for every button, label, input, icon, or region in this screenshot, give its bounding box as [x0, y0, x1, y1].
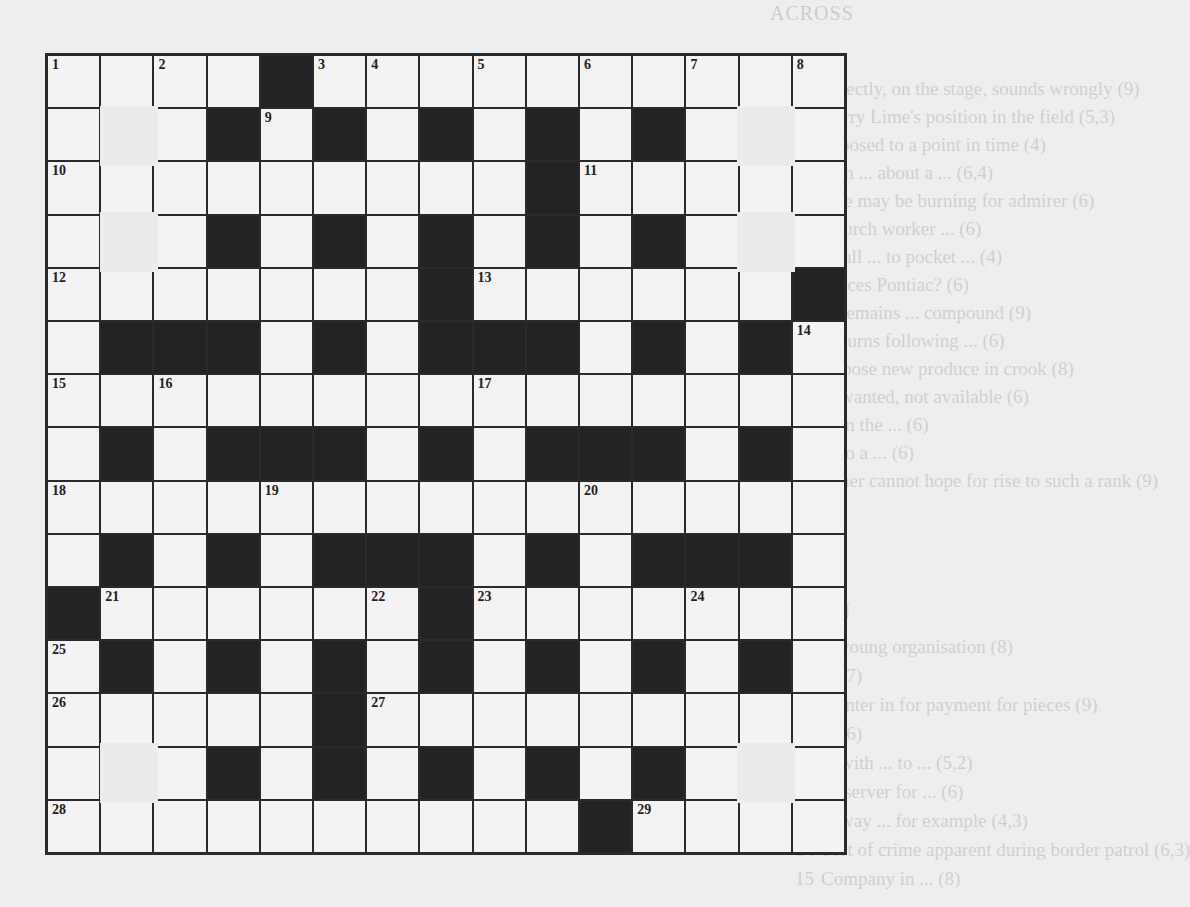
- grid-cell[interactable]: [420, 801, 471, 852]
- grid-cell[interactable]: [154, 269, 205, 320]
- grid-cell[interactable]: [48, 748, 99, 799]
- grid-cell[interactable]: [793, 588, 844, 639]
- grid-cell[interactable]: [474, 216, 525, 267]
- grid-cell[interactable]: [527, 588, 578, 639]
- grid-cell[interactable]: 11: [580, 162, 631, 213]
- grid-cell[interactable]: [633, 588, 684, 639]
- grid-cell[interactable]: [261, 322, 312, 373]
- grid-cell[interactable]: [48, 109, 99, 160]
- grid-cell[interactable]: [208, 269, 259, 320]
- grid-cell[interactable]: [686, 109, 737, 160]
- grid-cell[interactable]: [580, 535, 631, 586]
- grid-cell[interactable]: 27: [367, 694, 418, 745]
- grid-cell[interactable]: [686, 748, 737, 799]
- grid-cell[interactable]: [367, 109, 418, 160]
- grid-cell[interactable]: [314, 801, 365, 852]
- grid-cell[interactable]: [367, 322, 418, 373]
- grid-cell[interactable]: [367, 748, 418, 799]
- grid-cell[interactable]: [154, 216, 205, 267]
- grid-cell[interactable]: [101, 375, 152, 426]
- grid-cell[interactable]: [580, 748, 631, 799]
- grid-cell[interactable]: [686, 322, 737, 373]
- grid-cell[interactable]: [793, 535, 844, 586]
- grid-cell[interactable]: 10: [48, 162, 99, 213]
- grid-cell[interactable]: [793, 694, 844, 745]
- grid-cell[interactable]: 6: [580, 56, 631, 107]
- grid-cell[interactable]: [314, 269, 365, 320]
- grid-cell[interactable]: [474, 535, 525, 586]
- grid-cell[interactable]: [527, 482, 578, 533]
- grid-cell[interactable]: [367, 269, 418, 320]
- grid-cell[interactable]: 28: [48, 801, 99, 852]
- grid-cell[interactable]: [261, 162, 312, 213]
- grid-cell[interactable]: [686, 641, 737, 692]
- grid-cell[interactable]: [154, 428, 205, 479]
- grid-cell[interactable]: 18: [48, 482, 99, 533]
- grid-cell[interactable]: [367, 641, 418, 692]
- grid-cell[interactable]: [101, 801, 152, 852]
- grid-cell[interactable]: [793, 428, 844, 479]
- grid-cell[interactable]: [686, 375, 737, 426]
- grid-cell[interactable]: 23: [474, 588, 525, 639]
- grid-cell[interactable]: [314, 482, 365, 533]
- grid-cell[interactable]: [208, 482, 259, 533]
- grid-cell[interactable]: [474, 428, 525, 479]
- grid-cell[interactable]: [367, 428, 418, 479]
- grid-cell[interactable]: 5: [474, 56, 525, 107]
- grid-cell[interactable]: [48, 322, 99, 373]
- grid-cell[interactable]: [740, 694, 791, 745]
- grid-cell[interactable]: 26: [48, 694, 99, 745]
- grid-cell[interactable]: [208, 375, 259, 426]
- grid-cell[interactable]: [580, 216, 631, 267]
- grid-cell[interactable]: [261, 801, 312, 852]
- grid-cell[interactable]: [101, 162, 152, 213]
- grid-cell[interactable]: [793, 482, 844, 533]
- grid-cell[interactable]: 14: [793, 322, 844, 373]
- grid-cell[interactable]: [633, 56, 684, 107]
- grid-cell[interactable]: [633, 375, 684, 426]
- grid-cell[interactable]: [261, 588, 312, 639]
- grid-cell[interactable]: 17: [474, 375, 525, 426]
- grid-cell[interactable]: [420, 694, 471, 745]
- grid-cell[interactable]: [367, 801, 418, 852]
- grid-cell[interactable]: [580, 322, 631, 373]
- grid-cell[interactable]: [527, 801, 578, 852]
- grid-cell[interactable]: [474, 748, 525, 799]
- grid-cell[interactable]: [633, 482, 684, 533]
- grid-cell[interactable]: [101, 748, 152, 799]
- grid-cell[interactable]: [793, 748, 844, 799]
- grid-cell[interactable]: [367, 216, 418, 267]
- grid-cell[interactable]: [740, 482, 791, 533]
- grid-cell[interactable]: [740, 748, 791, 799]
- grid-cell[interactable]: [261, 694, 312, 745]
- grid-cell[interactable]: 21: [101, 588, 152, 639]
- grid-cell[interactable]: [580, 109, 631, 160]
- grid-cell[interactable]: [48, 428, 99, 479]
- grid-cell[interactable]: [793, 801, 844, 852]
- grid-cell[interactable]: 15: [48, 375, 99, 426]
- grid-cell[interactable]: [48, 535, 99, 586]
- grid-cell[interactable]: [101, 482, 152, 533]
- grid-cell[interactable]: [314, 375, 365, 426]
- grid-cell[interactable]: [740, 588, 791, 639]
- grid-cell[interactable]: [420, 375, 471, 426]
- grid-cell[interactable]: [48, 216, 99, 267]
- grid-cell[interactable]: [793, 216, 844, 267]
- grid-cell[interactable]: [154, 482, 205, 533]
- grid-cell[interactable]: 29: [633, 801, 684, 852]
- grid-cell[interactable]: [101, 694, 152, 745]
- grid-cell[interactable]: [101, 109, 152, 160]
- grid-cell[interactable]: 24: [686, 588, 737, 639]
- grid-cell[interactable]: 4: [367, 56, 418, 107]
- grid-cell[interactable]: [686, 162, 737, 213]
- grid-cell[interactable]: [527, 375, 578, 426]
- grid-cell[interactable]: 3: [314, 56, 365, 107]
- grid-cell[interactable]: [261, 641, 312, 692]
- grid-cell[interactable]: [580, 375, 631, 426]
- grid-cell[interactable]: [154, 801, 205, 852]
- grid-cell[interactable]: [686, 428, 737, 479]
- grid-cell[interactable]: [793, 641, 844, 692]
- grid-cell[interactable]: [474, 801, 525, 852]
- grid-cell[interactable]: [154, 641, 205, 692]
- grid-cell[interactable]: [580, 641, 631, 692]
